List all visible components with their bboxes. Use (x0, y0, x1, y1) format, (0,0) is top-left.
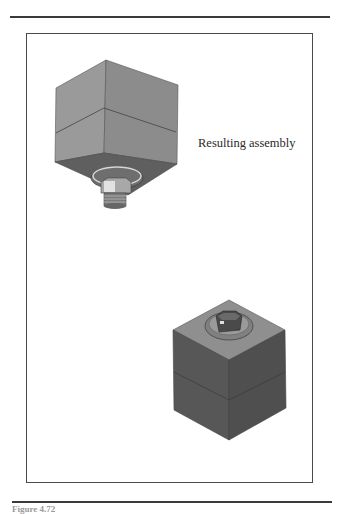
figure-caption: Figure 4.72 (12, 504, 55, 514)
cube-top-view (173, 300, 286, 440)
cube-bottom-view (55, 60, 178, 209)
bottom-rule (12, 501, 332, 503)
resulting-assembly-label: Resulting assembly (198, 136, 296, 151)
